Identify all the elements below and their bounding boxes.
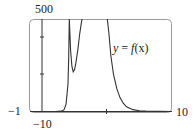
viewing-window-frame [30,20,172,113]
x-min-label: −10 [33,118,52,130]
x-max-label: 10 [176,106,188,118]
y-min-label: −1 [8,105,21,117]
chart-plot [0,0,195,134]
curve-label-eq: = [118,41,131,55]
curve-right-branch [107,19,172,112]
curve-left-branch [42,19,82,112]
curve-label-x: (x) [134,41,148,55]
curve-label: y = f(x) [113,42,148,54]
y-max-label: 500 [35,3,53,15]
